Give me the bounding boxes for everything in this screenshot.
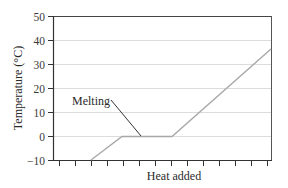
y-axis-label: Temperature (°C) xyxy=(11,46,25,130)
y-tick-label: 10 xyxy=(34,107,46,119)
y-tick-label: 30 xyxy=(34,59,46,71)
x-axis-label: Heat added xyxy=(147,169,201,183)
y-tick-label: 40 xyxy=(34,35,46,47)
y-tick-labels: 50 40 30 20 10 0 −10 xyxy=(27,11,45,167)
y-tick-label: 20 xyxy=(34,83,46,95)
melting-annotation: Melting xyxy=(72,94,141,136)
heating-curve-line xyxy=(91,49,271,160)
y-ticks xyxy=(48,17,53,137)
y-tick-label: −10 xyxy=(27,155,45,167)
gridlines xyxy=(53,41,272,137)
heating-curve-chart: 50 40 30 20 10 0 −10 Heat added Temperat… xyxy=(0,0,288,188)
y-tick-label: 50 xyxy=(34,11,46,23)
y-tick-label: 0 xyxy=(39,131,45,143)
melting-leader-line xyxy=(111,100,141,136)
melting-label: Melting xyxy=(72,94,110,108)
